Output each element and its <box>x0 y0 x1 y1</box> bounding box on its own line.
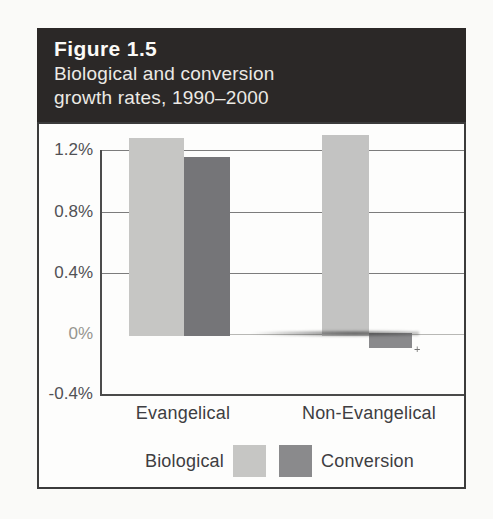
figure-header: Figure 1.5 Biological and conversion gro… <box>37 28 466 122</box>
legend-swatch-conversion <box>279 445 312 477</box>
y-tick-label-0.4%: 0.4% <box>41 263 93 283</box>
plot-area: 1.2%0.8%0.4%0%-0.4%EvangelicalNon-Evange… <box>39 124 464 487</box>
category-label-evangelical: Evangelical <box>98 403 268 424</box>
figure-1-5: Figure 1.5 Biological and conversion gro… <box>37 28 466 489</box>
y-tick-label-0.8%: 0.8% <box>41 202 93 222</box>
legend-label-biological: Biological <box>145 451 224 472</box>
chart-box: 1.2%0.8%0.4%0%-0.4%EvangelicalNon-Evange… <box>37 122 466 489</box>
y-tick-label--0.4%: -0.4% <box>41 384 93 404</box>
figure-title-line2: growth rates, 1990–2000 <box>54 86 456 110</box>
category-label-non-evangelical: Non-Evangelical <box>284 403 454 424</box>
bar-biological-non-evangelical <box>322 135 369 336</box>
legend-label-conversion: Conversion <box>321 451 414 472</box>
x-axis-line <box>100 394 464 396</box>
y-axis-line <box>100 150 102 396</box>
legend-swatch-biological <box>233 445 266 477</box>
y-tick-label-0%: 0% <box>41 324 93 344</box>
figure-label: Figure 1.5 <box>54 36 456 62</box>
zero-line-smudge <box>251 330 419 337</box>
figure-title-line1: Biological and conversion <box>54 62 456 86</box>
print-artifact: + <box>414 343 420 355</box>
bar-conversion-evangelical <box>184 157 230 336</box>
y-tick-label-1.2%: 1.2% <box>41 140 93 160</box>
legend: Biological Conversion <box>67 445 492 477</box>
bar-biological-evangelical <box>129 138 184 336</box>
